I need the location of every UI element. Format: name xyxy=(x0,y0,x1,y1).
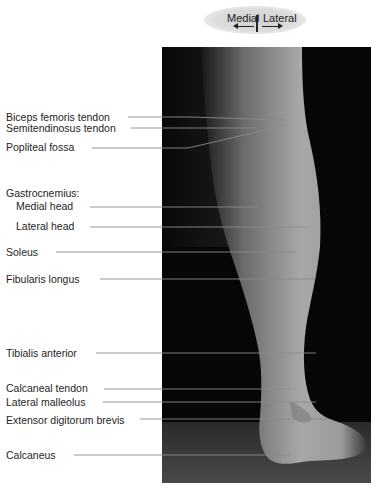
leader-popliteal-fossa xyxy=(92,126,283,148)
leader-lines xyxy=(0,0,391,497)
leader-biceps-femoris xyxy=(128,117,285,120)
